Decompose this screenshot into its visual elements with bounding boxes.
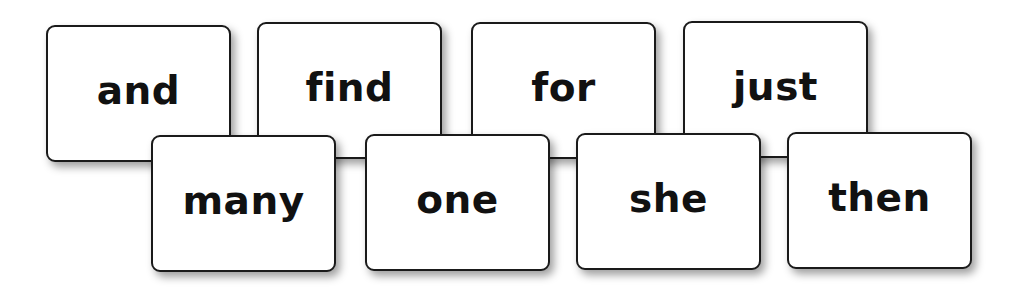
- card-word: one: [416, 180, 499, 219]
- card-word: just: [733, 67, 818, 106]
- card-word: for: [531, 68, 596, 107]
- card-she: she: [576, 133, 761, 270]
- card-word: many: [182, 181, 304, 220]
- card-word: she: [629, 179, 708, 218]
- card-word: and: [97, 71, 181, 110]
- card-word: then: [828, 178, 931, 217]
- card-word: find: [305, 68, 393, 107]
- card-many: many: [151, 135, 336, 272]
- card-then: then: [787, 132, 972, 269]
- card-one: one: [365, 134, 550, 271]
